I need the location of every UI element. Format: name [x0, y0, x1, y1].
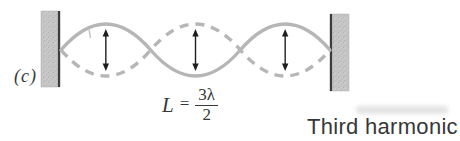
- wall-right: [330, 14, 349, 91]
- panel-label: (c): [14, 66, 37, 87]
- formula-numerator: 3λ: [195, 86, 218, 105]
- formula-fraction: 3λ 2: [195, 86, 218, 124]
- length-formula: L = 3λ 2: [162, 86, 218, 124]
- print-artifact: [89, 29, 91, 38]
- caption-third-harmonic: Third harmonic: [307, 114, 458, 140]
- formula-equals-sign: =: [180, 94, 190, 116]
- wall-left: [41, 11, 60, 87]
- antinode-arrow: [192, 29, 198, 71]
- standing-wave-figure: (c) L = 3λ 2 Third harmonic: [0, 0, 460, 141]
- antinode-arrow: [282, 29, 288, 71]
- formula-denominator: 2: [195, 105, 218, 125]
- formula-length-symbol: L: [162, 93, 174, 118]
- scan-smudge-artifact: [356, 106, 448, 114]
- antinode-arrow: [103, 29, 109, 71]
